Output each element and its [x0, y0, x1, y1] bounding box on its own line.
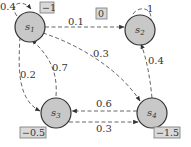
- svg-text:0: 0: [98, 8, 104, 19]
- reward-box-s1: −1: [40, 2, 56, 13]
- node-s1: s1: [15, 12, 45, 42]
- edge-label-s1-s4: 0.3: [93, 48, 109, 59]
- edge-label-s1-s2: 0.1: [68, 16, 84, 27]
- edge-label-s1-s3: 0.2: [20, 69, 36, 80]
- node-s4: s4: [137, 98, 167, 128]
- mrp-diagram: 0.4 0.1 0.2 0.3 1 0.7 0.3 0.4 0.6 s1 s2 …: [0, 0, 191, 147]
- reward-box-s2: 0: [96, 8, 107, 19]
- edge-label-s3-s4: 0.3: [96, 123, 112, 134]
- node-s2: s2: [125, 15, 155, 45]
- edge-label-s1-s1: 0.4: [0, 1, 16, 12]
- edge-s4-s2: [141, 44, 152, 98]
- svg-text:−1: −1: [42, 2, 56, 13]
- edge-label-s3-s1: 0.7: [52, 62, 68, 73]
- reward-box-s3: −0.5: [20, 127, 46, 138]
- edge-label-s4-s2: 0.4: [148, 55, 164, 66]
- node-s3: s3: [41, 98, 71, 128]
- edge-label-s4-s3: 0.6: [96, 98, 112, 109]
- svg-text:−1.5: −1.5: [156, 127, 179, 138]
- reward-box-s4: −1.5: [154, 127, 180, 138]
- svg-text:−0.5: −0.5: [22, 127, 45, 138]
- edge-label-s2-s2: 1: [147, 3, 153, 14]
